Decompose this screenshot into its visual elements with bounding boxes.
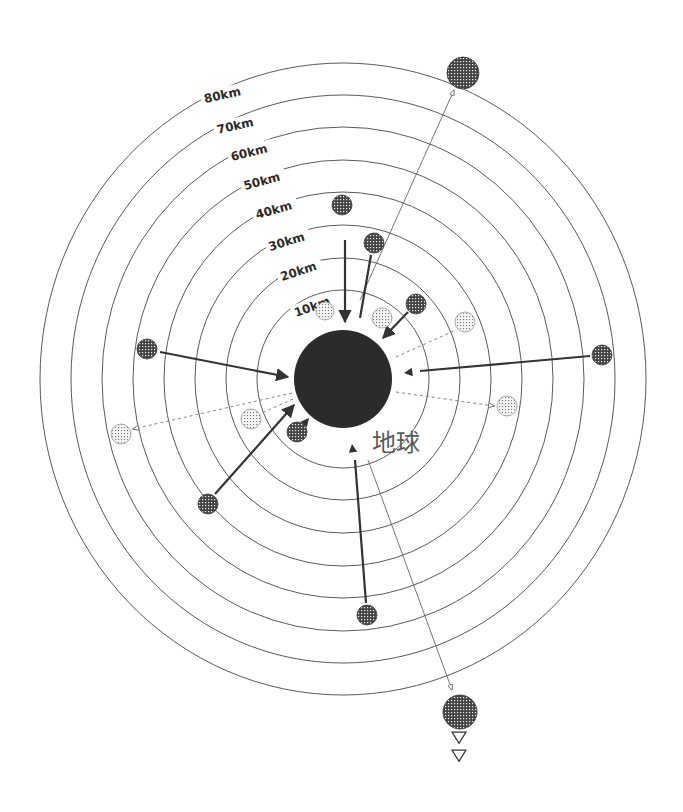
arrowhead-icon — [404, 368, 413, 376]
object-icon-obj-sw-50km — [198, 494, 218, 514]
arrow-e-dashed-2 — [396, 392, 494, 406]
ring-label: 30km — [267, 230, 307, 254]
object-icon-obj-10km-b — [372, 308, 392, 328]
object-icon-obj-west-20km — [241, 409, 261, 429]
object-icon-obj-west-80km — [111, 424, 131, 444]
object-icon-obj-south-60km — [357, 605, 377, 625]
arrow-bottom-escape — [368, 460, 452, 690]
arrow-east-fall — [420, 356, 590, 371]
arrow-30km-fall — [360, 255, 371, 318]
object-icon-obj-east-80km — [592, 345, 612, 365]
object-icon-obj-30km-top — [364, 233, 384, 253]
arrowhead-icon — [349, 444, 357, 453]
object-icon-obj-20km-ne — [406, 294, 426, 314]
object-icon-obj-sw-10km — [287, 422, 307, 442]
arrow-west-fall — [160, 352, 288, 377]
earth: 地球 — [294, 330, 420, 457]
orbit-diagram: 10km20km30km40km50km60km70km80km 地球 — [0, 0, 683, 812]
object-icon-obj-10km-a — [316, 302, 334, 320]
bottom-markers — [452, 732, 466, 761]
object-icon-obj-40km-top — [332, 195, 352, 215]
object-icon-obj-top-far — [447, 57, 479, 89]
arrow-e-dashed — [396, 330, 456, 357]
object-icon-obj-bottom-far — [443, 695, 477, 729]
object-icon-obj-30km-e — [455, 312, 475, 332]
object-icon-obj-west-60km — [137, 339, 157, 359]
ring-label: 20km — [279, 259, 319, 284]
object-icon-obj-east-30km — [497, 396, 517, 416]
down-triangle-icon — [452, 732, 466, 743]
earth-icon — [294, 330, 392, 428]
earth-label: 地球 — [372, 429, 420, 457]
down-triangle-icon — [452, 750, 466, 761]
